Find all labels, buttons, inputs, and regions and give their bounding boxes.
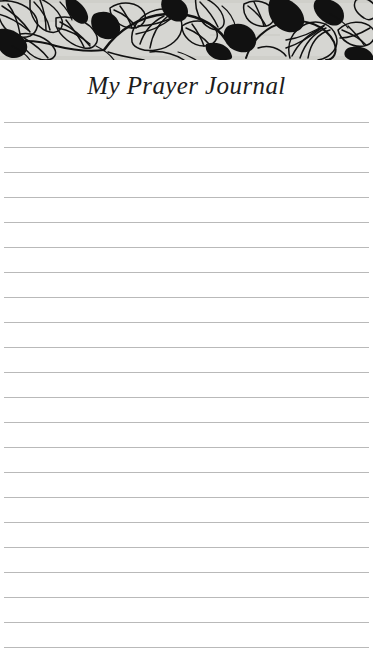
writing-line bbox=[4, 372, 369, 373]
writing-line bbox=[4, 297, 369, 298]
writing-line bbox=[4, 322, 369, 323]
writing-line bbox=[4, 547, 369, 548]
journal-page: My Prayer Journal bbox=[0, 0, 373, 669]
ruled-lines-group bbox=[0, 0, 373, 669]
writing-line bbox=[4, 147, 369, 148]
writing-line bbox=[4, 522, 369, 523]
writing-line bbox=[4, 272, 369, 273]
writing-line bbox=[4, 622, 369, 623]
writing-line bbox=[4, 422, 369, 423]
writing-line bbox=[4, 172, 369, 173]
writing-line bbox=[4, 647, 369, 648]
writing-line bbox=[4, 472, 369, 473]
writing-line bbox=[4, 347, 369, 348]
writing-line bbox=[4, 397, 369, 398]
writing-line bbox=[4, 572, 369, 573]
writing-line bbox=[4, 197, 369, 198]
writing-line bbox=[4, 247, 369, 248]
writing-line bbox=[4, 222, 369, 223]
writing-line bbox=[4, 597, 369, 598]
writing-line bbox=[4, 122, 369, 123]
writing-line bbox=[4, 447, 369, 448]
writing-line bbox=[4, 497, 369, 498]
